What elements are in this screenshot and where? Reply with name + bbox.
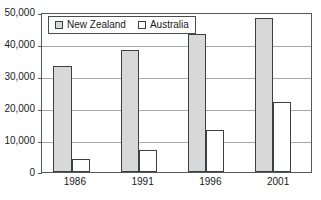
legend-label: Australia [150, 20, 189, 30]
bar-new-zealand[interactable] [188, 34, 206, 172]
y-axis-tick-label: 50,000 [4, 8, 35, 18]
x-axis-tick-label: 1991 [109, 176, 177, 187]
y-axis-tick-mark [38, 173, 42, 174]
legend: New ZealandAustralia [48, 16, 196, 34]
x-axis-tick-label: 2001 [244, 176, 312, 187]
x-axis-tick-label: 1986 [41, 176, 109, 187]
bar-australia[interactable] [206, 130, 224, 172]
bar-group [109, 14, 176, 172]
bar-new-zealand[interactable] [53, 66, 71, 172]
y-axis-tick-label: 30,000 [4, 72, 35, 82]
legend-swatch-icon [55, 21, 63, 29]
bar-group [177, 14, 244, 172]
legend-entry[interactable]: Australia [138, 20, 189, 30]
bar-australia[interactable] [139, 150, 157, 172]
x-axis-tick-label: 1996 [177, 176, 245, 187]
y-axis-tick-label: 20,000 [4, 104, 35, 114]
bar-groups [42, 14, 311, 172]
legend-swatch-icon [138, 21, 146, 29]
y-axis-tick-label: 0 [29, 168, 35, 178]
bar-new-zealand[interactable] [255, 18, 273, 172]
legend-label: New Zealand [67, 20, 126, 30]
bar-group [42, 14, 109, 172]
bar-australia[interactable] [273, 102, 291, 172]
bar-new-zealand[interactable] [121, 50, 139, 172]
legend-entry[interactable]: New Zealand [55, 20, 126, 30]
y-axis-labels: 010,00020,00030,00040,00050,000 [0, 0, 40, 200]
y-axis-tick-label: 40,000 [4, 40, 35, 50]
bar-australia[interactable] [72, 159, 90, 172]
y-axis-tick-label: 10,000 [4, 136, 35, 146]
bar-group [244, 14, 311, 172]
bar-chart: 010,00020,00030,00040,00050,000 New Zeal… [0, 0, 321, 200]
plot-area [41, 13, 312, 173]
x-axis-labels: 1986199119962001 [41, 176, 312, 187]
